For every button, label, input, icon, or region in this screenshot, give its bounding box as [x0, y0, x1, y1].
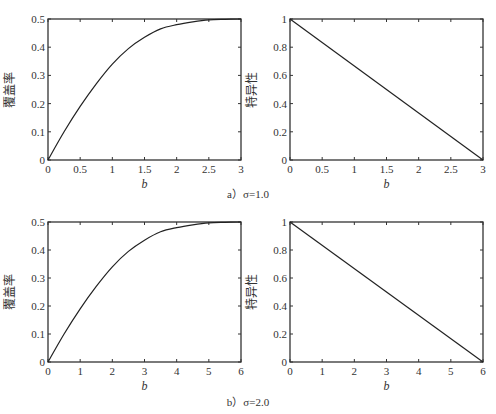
chart-a-specificity: 00.511.522.5300.20.40.60.81b特异性: [244, 13, 486, 191]
y-axis-label: 覆盖率: [2, 72, 17, 108]
x-tick-label: 1: [77, 365, 83, 377]
x-tick-label: 1.5: [138, 163, 152, 175]
x-tick-label: 1: [319, 365, 325, 377]
x-tick-label: 2.5: [202, 163, 216, 175]
y-tick-label: 1: [282, 216, 288, 228]
y-tick-label: 0.2: [31, 98, 45, 110]
y-tick-label: 0.1: [31, 126, 45, 138]
x-tick-label: 3: [384, 365, 390, 377]
x-tick-label: 5: [448, 365, 454, 377]
x-axis-label: b: [384, 177, 390, 191]
x-tick-label: 0.5: [315, 163, 329, 175]
figure: 00.511.522.5300.10.20.30.40.5b覆盖率 00.511…: [0, 0, 496, 414]
x-tick-label: 3: [238, 163, 244, 175]
data-series-line: [48, 19, 241, 160]
x-tick-label: 2: [352, 365, 358, 377]
x-tick-label: 0.5: [73, 163, 87, 175]
y-tick-label: 0.6: [273, 272, 287, 284]
x-tick-label: 2: [174, 163, 180, 175]
x-tick-label: 0: [45, 163, 51, 175]
y-tick-label: 0.4: [273, 98, 287, 110]
chart-a-coverage: 00.511.522.5300.10.20.30.40.5b覆盖率: [2, 13, 244, 191]
y-tick-label: 1: [282, 13, 288, 25]
y-tick-label: 0.2: [31, 300, 45, 312]
data-series-line: [48, 222, 241, 362]
y-tick-label: 0.5: [31, 216, 45, 228]
y-tick-label: 0.4: [31, 41, 45, 53]
y-tick-label: 0: [40, 154, 46, 166]
x-tick-label: 1: [110, 163, 116, 175]
y-tick-label: 0.3: [31, 272, 45, 284]
y-tick-label: 0: [282, 356, 288, 368]
data-series-line: [290, 222, 483, 362]
x-axis-label: b: [142, 177, 148, 191]
x-axis-label: b: [384, 379, 390, 393]
caption-b: b）σ=2.0: [227, 396, 270, 408]
x-tick-label: 0: [287, 163, 293, 175]
y-tick-label: 0.2: [273, 126, 287, 138]
y-tick-label: 0: [282, 154, 288, 166]
x-tick-label: 3: [142, 365, 148, 377]
x-tick-label: 2: [416, 163, 422, 175]
x-tick-label: 0: [45, 365, 51, 377]
y-tick-label: 0.1: [31, 328, 45, 340]
plot-frame: [48, 222, 241, 362]
chart-b-coverage: 012345600.10.20.30.40.5b覆盖率: [2, 216, 244, 393]
x-tick-label: 4: [416, 365, 422, 377]
x-tick-label: 6: [238, 365, 244, 377]
x-tick-label: 1.5: [380, 163, 394, 175]
y-tick-label: 0.2: [273, 328, 287, 340]
x-tick-label: 2: [110, 365, 116, 377]
chart-b-specificity: 012345600.20.40.60.81b特异性: [244, 216, 486, 393]
x-tick-label: 1: [352, 163, 358, 175]
y-tick-label: 0.6: [273, 69, 287, 81]
y-tick-label: 0.4: [273, 300, 287, 312]
plot-frame: [48, 19, 241, 160]
x-tick-label: 2.5: [444, 163, 458, 175]
caption-a: a）σ=1.0: [227, 188, 269, 200]
y-tick-label: 0.5: [31, 13, 45, 25]
y-tick-label: 0.4: [31, 244, 45, 256]
x-tick-label: 4: [174, 365, 180, 377]
y-axis-label: 特异性: [244, 274, 259, 310]
y-tick-label: 0.8: [273, 244, 287, 256]
y-tick-label: 0.8: [273, 41, 287, 53]
y-tick-label: 0.3: [31, 69, 45, 81]
x-tick-label: 5: [206, 365, 212, 377]
x-tick-label: 6: [480, 365, 486, 377]
data-series-line: [290, 19, 483, 160]
x-tick-label: 3: [480, 163, 486, 175]
x-tick-label: 0: [287, 365, 293, 377]
x-axis-label: b: [142, 379, 148, 393]
y-axis-label: 特异性: [244, 72, 259, 108]
y-axis-label: 覆盖率: [2, 274, 17, 310]
y-tick-label: 0: [40, 356, 46, 368]
